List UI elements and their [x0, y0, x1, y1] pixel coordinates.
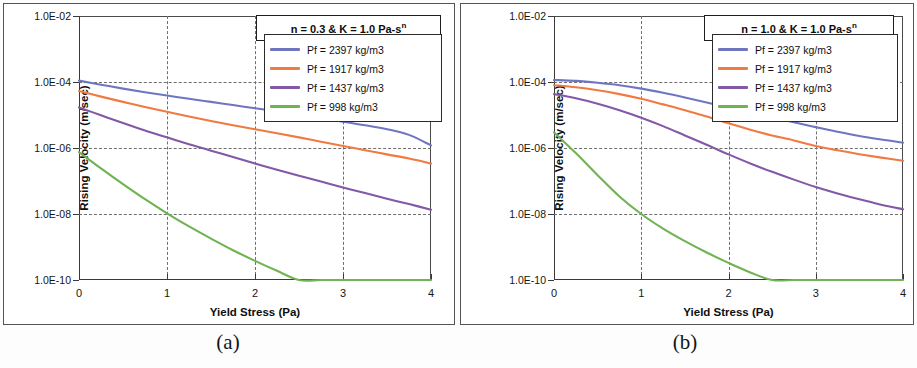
x-axis-tick-label: 4 [900, 287, 906, 299]
legend-label: Pf = 2397 kg/m3 [307, 44, 384, 56]
legend-item: Pf = 1917 kg/m3 [718, 59, 890, 78]
legend-item: Pf = 2397 kg/m3 [270, 40, 434, 59]
x-axis-title-a: Yield Stress (Pa) [210, 306, 300, 318]
legend-color-swatch [270, 105, 300, 108]
x-axis-tick-label: 0 [76, 287, 82, 299]
legend-color-swatch [718, 105, 748, 108]
legend-a: Pf = 2397 kg/m3Pf = 1917 kg/m3Pf = 1437 … [264, 34, 442, 122]
legend-item: Pf = 1917 kg/m3 [270, 59, 434, 78]
y-axis-tick-label: 1.0E-08 [34, 208, 71, 220]
x-axis-tick-label: 3 [340, 287, 346, 299]
legend-item: Pf = 998 kg/m3 [270, 97, 434, 116]
y-axis-tick-label: 1.0E-02 [34, 10, 71, 22]
panel-caption-a: (a) [168, 330, 288, 355]
y-axis-tick-label: 1.0E-06 [34, 142, 71, 154]
legend-label: Pf = 2397 kg/m3 [755, 44, 832, 56]
x-axis-tick-label: 1 [164, 287, 170, 299]
legend-color-swatch [270, 86, 300, 89]
legend-color-swatch [718, 67, 748, 70]
legend-item: Pf = 998 kg/m3 [718, 97, 890, 116]
parameter-title-exponent-b: n [852, 21, 857, 30]
y-axis-tick-label: 1.0E-06 [509, 142, 546, 154]
legend-color-swatch [718, 86, 748, 89]
y-axis-tick-label: 1.0E-02 [509, 10, 546, 22]
legend-color-swatch [718, 48, 748, 51]
legend-label: Pf = 1437 kg/m3 [307, 82, 384, 94]
legend-label: Pf = 1917 kg/m3 [307, 63, 384, 75]
y-axis-tick-label: 1.0E-04 [509, 76, 546, 88]
y-axis-tick [548, 280, 554, 281]
y-axis-tick-label: 1.0E-10 [34, 274, 71, 286]
legend-b: Pf = 2397 kg/m3Pf = 1917 kg/m3Pf = 1437 … [712, 34, 898, 122]
legend-label: Pf = 998 kg/m3 [307, 101, 378, 113]
legend-item: Pf = 1437 kg/m3 [718, 78, 890, 97]
x-axis-tick-label: 4 [428, 287, 434, 299]
x-axis-tick-label: 3 [813, 287, 819, 299]
x-axis-tick-label: 2 [725, 287, 731, 299]
legend-label: Pf = 1437 kg/m3 [755, 82, 832, 94]
x-axis-tick-label: 0 [551, 287, 557, 299]
parameter-title-text-b: n = 1.0 & K = 1.0 Pa-s [741, 23, 852, 35]
legend-item: Pf = 2397 kg/m3 [718, 40, 890, 59]
parameter-title-exponent-a: n [401, 21, 406, 30]
legend-label: Pf = 1917 kg/m3 [755, 63, 832, 75]
series-line [79, 152, 431, 281]
y-axis-tick-label: 1.0E-08 [509, 208, 546, 220]
series-line [79, 107, 431, 209]
legend-color-swatch [270, 48, 300, 51]
y-axis-tick-label: 1.0E-04 [34, 76, 71, 88]
y-axis-tick [73, 280, 79, 281]
chart-panel-b: 1.0E-021.0E-041.0E-061.0E-081.0E-1001234… [460, 3, 914, 325]
legend-label: Pf = 998 kg/m3 [755, 101, 826, 113]
legend-color-swatch [270, 67, 300, 70]
parameter-title-text-a: n = 0.3 & K = 1.0 Pa-s [291, 23, 402, 35]
y-axis-tick-label: 1.0E-10 [509, 274, 546, 286]
x-axis-title-b: Yield Stress (Pa) [683, 306, 773, 318]
figure-canvas: 1.0E-021.0E-041.0E-061.0E-081.0E-1001234… [0, 0, 917, 368]
x-axis-tick-label: 2 [252, 287, 258, 299]
chart-panel-a: 1.0E-021.0E-041.0E-061.0E-081.0E-1001234… [3, 3, 455, 325]
legend-item: Pf = 1437 kg/m3 [270, 78, 434, 97]
x-axis-tick-label: 1 [638, 287, 644, 299]
panel-caption-b: (b) [625, 330, 745, 355]
